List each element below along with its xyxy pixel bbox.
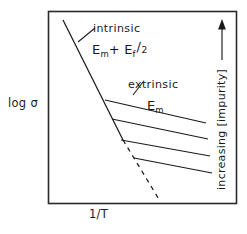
x-axis-label: 1/T: [89, 209, 108, 221]
impurity-axis-label: increasing [impurity]: [216, 69, 227, 190]
em-sub: m: [155, 105, 163, 115]
em-base: E: [147, 98, 155, 113]
formula-denominator: 2: [142, 46, 148, 55]
y-axis-label: log σ: [8, 98, 38, 110]
extrinsic-activation-energy-label: Em: [147, 99, 164, 112]
plot-canvas: [0, 0, 247, 234]
formula-fraction: /2: [136, 41, 149, 54]
formula-plus-e2: + E: [109, 42, 133, 57]
formula-slash: /: [137, 40, 142, 53]
conductivity-arrhenius-figure: log σ 1/T intrinsic Em+ Ef/2 extrinsic E…: [0, 0, 247, 234]
intrinsic-label: intrinsic: [93, 23, 140, 34]
formula-sub-m: m: [100, 49, 108, 59]
extrinsic-label: extrinsic: [128, 79, 178, 90]
intrinsic-activation-energy-label: Em+ Ef/2: [92, 41, 149, 56]
